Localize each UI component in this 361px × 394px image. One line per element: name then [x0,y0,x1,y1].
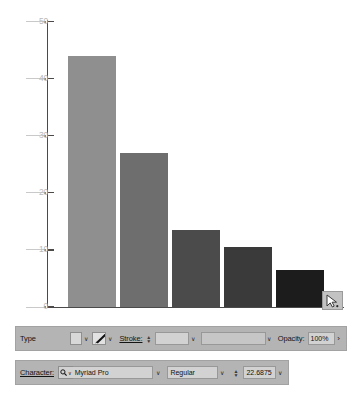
stroke-weight-input[interactable] [155,332,189,345]
font-family-chevron-down-icon[interactable]: ∨ [153,366,161,379]
opacity-label: Opacity: [278,334,305,343]
more-options-button[interactable]: › [335,334,342,343]
stroke-profile-input[interactable] [201,332,266,345]
bar-2[interactable] [120,153,168,307]
character-panel-label: Character: [20,368,54,377]
font-size-input[interactable]: 22.6875 [243,366,275,379]
bar-1[interactable] [68,56,116,307]
search-icon [60,369,67,376]
type-control-panel: Type ∨ ∨ Stroke: ▲ ▼ ∨ ∨ Opacity: 100% › [15,326,347,351]
font-search-button[interactable]: ∨ [58,366,73,379]
type-panel-label: Type [20,334,36,343]
bar-4[interactable] [224,247,272,307]
font-family-input[interactable]: Myriad Pro [73,366,154,379]
search-chevron-down-icon[interactable]: ∨ [68,370,72,376]
bar-5[interactable] [276,270,324,307]
arrow-glyph [326,294,339,308]
stroke-profile-chevron-down-icon[interactable]: ∨ [266,332,273,345]
stroke-weight-stepper[interactable]: ▲ ▼ [146,332,152,345]
stroke-label: Stroke: [119,334,142,343]
stepper-down-icon[interactable]: ▼ [234,373,239,377]
brush-definition-swatch[interactable] [92,332,106,345]
font-style-chevron-down-icon[interactable]: ∨ [218,366,226,379]
stepper-down-icon[interactable]: ▼ [146,339,151,343]
font-style-input[interactable]: Regular [167,366,218,379]
opacity-input[interactable]: 100% [308,332,336,345]
chart-canvas: 50403020100 [0,0,361,320]
brush-chevron-down-icon[interactable]: ∨ [106,332,113,345]
font-size-chevron-down-icon[interactable]: ∨ [276,366,284,379]
direct-selection-arrow-icon[interactable] [322,291,343,310]
paint-brush-icon [95,334,106,344]
fill-color-swatch[interactable] [70,332,82,345]
bar-series [0,0,361,307]
bar-3[interactable] [172,230,220,307]
fill-chevron-down-icon[interactable]: ∨ [82,332,89,345]
character-control-panel: Character: ∨ Myriad Pro ∨ Regular ∨ ▲ ▼ … [15,360,289,385]
stroke-weight-chevron-down-icon[interactable]: ∨ [189,332,196,345]
font-size-stepper[interactable]: ▲ ▼ [232,366,239,379]
